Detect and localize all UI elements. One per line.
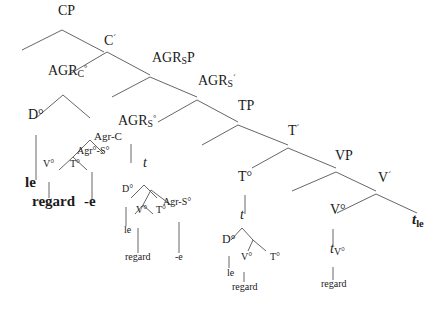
tree-node-to1: T°: [70, 159, 80, 169]
tree-node-vo4: V°: [330, 203, 346, 217]
tree-branch: [238, 125, 288, 145]
tree-node-agrso: AGRS°: [118, 114, 156, 129]
node-superscript: °: [84, 64, 87, 73]
node-label: regard: [32, 193, 75, 209]
node-label: TP: [238, 98, 254, 113]
tree-node-vo1: V°: [43, 159, 54, 169]
node-label: AGR: [118, 113, 148, 128]
tree-node-agrsbar: AGRS´: [198, 74, 236, 89]
node-label: -e: [175, 251, 183, 262]
node-label: Agr-S°: [163, 196, 191, 207]
tree-node-cbar: C´: [104, 34, 116, 48]
tree-node-t1: t: [143, 156, 147, 170]
node-label: regard: [232, 281, 258, 292]
tree-branch: [253, 240, 266, 251]
tree-node-do1: D°: [28, 108, 44, 122]
node-label: T: [288, 123, 297, 138]
node-label: Agr°-S°: [77, 145, 109, 156]
tree-node-regard3: regard: [232, 282, 258, 292]
tree-node-vp: VP: [335, 149, 353, 163]
tree-branch: [376, 194, 417, 213]
tree-node-to3: T°: [238, 170, 252, 184]
tree-branch: [252, 148, 288, 168]
node-subscript: le: [416, 218, 424, 229]
tree-node-le1: le: [25, 175, 36, 190]
tree-branch: [202, 125, 238, 145]
node-label: V: [378, 170, 388, 185]
tree-branch: [112, 77, 150, 97]
tree-node-tbar: T´: [288, 124, 299, 138]
node-label: Agr-C: [94, 130, 122, 142]
tree-branch: [292, 172, 336, 191]
node-label: D°: [28, 107, 44, 122]
node-superscript: °: [153, 114, 156, 123]
node-label: -e: [84, 193, 96, 209]
tree-node-tp: TP: [238, 99, 254, 113]
node-subscript: V°: [334, 247, 345, 258]
tree-node-vo2: V°: [136, 205, 147, 215]
node-label: le: [124, 224, 131, 235]
tree-branch: [288, 148, 336, 168]
node-label: AGR: [48, 63, 78, 78]
tree-branch: [336, 172, 376, 191]
node-label: V°: [241, 251, 252, 262]
tree-node-agrs3: Agr-S°: [163, 197, 191, 207]
node-label: V°: [43, 158, 54, 169]
tree-node-vo3: V°: [241, 252, 252, 262]
tree-node-agrsp: AGRSP: [152, 51, 195, 66]
tree-node-vbar: V´: [378, 171, 391, 185]
tree-node-regard2: regard: [125, 252, 151, 262]
node-label: V°: [136, 204, 147, 215]
node-label: t: [143, 155, 147, 170]
tree-node-e1: -e: [84, 194, 96, 209]
node-label: le: [227, 267, 234, 278]
tree-node-do3: D°: [222, 233, 235, 245]
tree-node-t2: t: [240, 208, 244, 222]
tree-node-to4: T°: [270, 252, 280, 262]
tree-node-do2: D°: [122, 184, 133, 194]
tree-node-agrs2: Agr°-S°: [77, 146, 109, 156]
node-label: C: [104, 33, 113, 48]
node-label: T°: [70, 158, 80, 169]
node-label: CP: [58, 3, 75, 18]
tree-edges: [0, 0, 445, 315]
tree-node-regard1: regard: [32, 194, 75, 209]
node-label: D°: [122, 183, 133, 194]
tree-node-regard4: regard: [321, 279, 347, 289]
node-label: VP: [335, 148, 353, 163]
tree-node-agrc: AGRC°: [48, 64, 87, 79]
node-superscript: ´: [113, 34, 116, 43]
node-superscript: ´: [388, 171, 391, 180]
syntax-tree-diagram: CPC´AGRC°AGRSPAGRS´D°Agr-CAgr°-S°V°T°ler…: [0, 0, 445, 315]
tree-node-tle: tle: [412, 212, 424, 229]
tree-branch: [242, 228, 253, 240]
node-superscript: ´: [233, 74, 236, 83]
node-superscript: ´: [297, 124, 300, 133]
node-label: T°: [270, 251, 280, 262]
tree-node-tv: tV°: [330, 242, 345, 257]
node-label: regard: [125, 251, 151, 262]
node-label: t: [240, 207, 244, 222]
node-label: V°: [330, 202, 346, 217]
tree-branch: [197, 100, 238, 122]
node-label: T°: [238, 169, 252, 184]
tree-node-cp: CP: [58, 4, 75, 18]
tree-branch: [248, 240, 253, 251]
tree-branch: [107, 52, 150, 75]
tree-node-agrc2: Agr-C: [94, 131, 122, 142]
node-label: AGR: [198, 73, 228, 88]
tree-branch: [150, 77, 197, 97]
node-label: AGR: [152, 50, 182, 65]
node-label: le: [25, 174, 36, 190]
tree-branch: [62, 30, 104, 52]
node-label: regard: [321, 278, 347, 289]
tree-branch: [158, 100, 197, 122]
node-label: D°: [222, 232, 235, 246]
tree-node-le2: le: [124, 225, 131, 235]
node-suffix: P: [187, 50, 195, 65]
tree-node-le3: le: [227, 268, 234, 278]
tree-branch: [22, 30, 62, 50]
tree-node-e2: -e: [175, 252, 183, 262]
tree-branch: [63, 95, 90, 118]
